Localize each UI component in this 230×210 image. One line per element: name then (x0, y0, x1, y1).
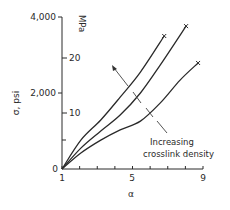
x-tick-label-9: 9 (200, 173, 206, 183)
increasing-arrow (112, 65, 167, 133)
x-axis-title: α (128, 189, 134, 199)
end-x-marker-icon (196, 61, 200, 65)
y-right-axis-title: MPa (77, 15, 87, 32)
end-x-marker-icon (162, 34, 166, 38)
x-tick-label-5: 5 (129, 173, 135, 183)
y-tick-label-2000: 2,000 (30, 88, 56, 98)
x-tick-label-1: 1 (59, 173, 65, 183)
annotation-line1: Increasing (150, 137, 194, 147)
y-right-tick-label-10: 10 (69, 108, 81, 118)
y-tick-label-0: 0 (52, 164, 58, 174)
y-right-ticks (62, 58, 67, 140)
plot-area: 4,000 2,000 0 20 10 MPa σ, psi 1 5 9 α I… (11, 12, 214, 199)
end-x-marker-icon (184, 24, 188, 28)
y-left-ticks (58, 17, 62, 93)
annotation-line2: crosslink density (143, 149, 214, 159)
stress-strain-chart: 4,000 2,000 0 20 10 MPa σ, psi 1 5 9 α I… (0, 0, 230, 210)
y-tick-label-4000: 4,000 (30, 12, 56, 22)
y-right-tick-label-20: 20 (69, 53, 81, 63)
curve-2 (62, 26, 186, 169)
data-series (62, 24, 200, 169)
y-left-axis-title: σ, psi (11, 91, 21, 115)
